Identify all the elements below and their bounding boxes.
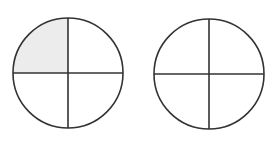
right-circle <box>154 19 264 129</box>
fraction-diagram <box>0 0 278 142</box>
left-circle <box>13 18 123 128</box>
